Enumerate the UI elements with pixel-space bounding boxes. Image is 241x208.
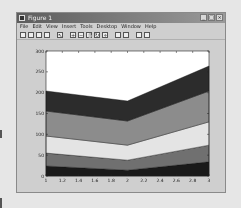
y-tick-label: 150 <box>35 111 44 116</box>
x-tick-label: 1.8 <box>108 178 115 183</box>
x-tick-label: 2 <box>126 178 129 183</box>
y-tick-label: 250 <box>35 69 44 74</box>
y-tick-label: 50 <box>38 153 44 158</box>
x-tick-label: 2.2 <box>140 178 147 183</box>
y-tick-label: 0 <box>41 174 44 179</box>
x-tick-label: 1.6 <box>91 178 98 183</box>
x-tick-label: 1.4 <box>75 178 82 183</box>
y-tick-label: 200 <box>35 90 44 95</box>
x-tick-label: 1.2 <box>59 178 66 183</box>
y-tick-label: 100 <box>35 132 44 137</box>
stacked-area-chart: 11.21.41.61.822.22.42.62.830501001502002… <box>0 0 241 208</box>
y-tick-label: 300 <box>35 49 44 54</box>
x-tick-label: 2.6 <box>173 178 180 183</box>
x-tick-label: 2.8 <box>189 178 196 183</box>
x-tick-label: 1 <box>45 178 48 183</box>
x-tick-label: 2.4 <box>157 178 164 183</box>
x-tick-label: 3 <box>208 178 211 183</box>
